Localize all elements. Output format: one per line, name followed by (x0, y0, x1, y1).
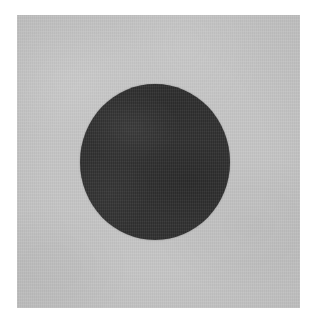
circle-rim-overlay (80, 84, 230, 240)
dark-circle-shape (80, 84, 230, 240)
circle-grain-overlay (80, 84, 230, 240)
circle-mottle-overlay (80, 84, 230, 240)
gray-background-panel (17, 15, 300, 308)
image-canvas (0, 0, 317, 326)
